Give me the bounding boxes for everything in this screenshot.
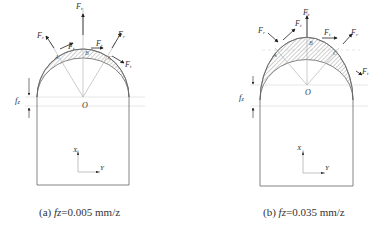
- label-force-top: Ft: [75, 2, 83, 11]
- label-point-b: B: [85, 50, 89, 56]
- label-force-right: Fr: [350, 28, 358, 37]
- label-force-left: Fr: [257, 26, 265, 35]
- caption-b: (b) fz=0.035 mm/z: [263, 206, 345, 218]
- label-force-mid-tangent: Ft: [95, 39, 103, 48]
- force-arrow-left-tangent: [283, 29, 295, 40]
- label-force-right: Fr: [117, 30, 125, 39]
- label-axis-y: Y: [100, 164, 105, 172]
- label-axis-x: X: [296, 144, 302, 152]
- caption-b-prefix: (b): [263, 206, 279, 218]
- axis-y-arrow-icon: [321, 172, 325, 174]
- force-diagram: Ft Fr Ft Ft Fr Ft A B C O fz X Y: [0, 0, 382, 234]
- label-force-top: Ft: [302, 8, 310, 17]
- caption-a-prefix: (a): [39, 206, 54, 218]
- caption-b-value: =0.035 mm/z: [286, 206, 345, 218]
- label-force-left: Fr: [36, 31, 44, 40]
- label-axis-x: X: [72, 146, 78, 154]
- label-force-mid-tangent: Ft: [323, 28, 331, 37]
- axis-x-arrow-icon: [302, 151, 304, 155]
- label-force-right-low: Ft: [124, 60, 132, 69]
- label-force-left-tangent: Ft: [67, 42, 75, 51]
- label-center-o: O: [305, 88, 311, 97]
- label-point-a: A: [54, 54, 59, 60]
- force-arrow-left-radial: [268, 33, 278, 42]
- axis-x-arrow-icon: [77, 151, 79, 155]
- panel-a: Ft Fr Ft Ft Fr Ft A B C O fz X Y: [15, 2, 145, 185]
- caption-a-value: =0.005 mm/z: [61, 206, 120, 218]
- caption-a: (a) fz=0.005 mm/z: [39, 206, 120, 218]
- panel-b: Ft Fr Ft Ft Fr Ft A B C O fz X Y: [239, 8, 369, 186]
- label-axis-y: Y: [325, 164, 330, 172]
- label-center-o: O: [82, 101, 88, 110]
- label-point-b: B: [309, 40, 313, 46]
- label-feed: fz: [15, 95, 21, 105]
- label-point-a: A: [272, 52, 277, 58]
- label-force-left-tangent: Ft: [294, 19, 302, 28]
- label-force-right-low: Ft: [361, 67, 369, 76]
- caption-b-var: fz: [279, 206, 286, 218]
- label-feed: fz: [239, 92, 245, 102]
- force-arrow-left-radial: [46, 36, 54, 48]
